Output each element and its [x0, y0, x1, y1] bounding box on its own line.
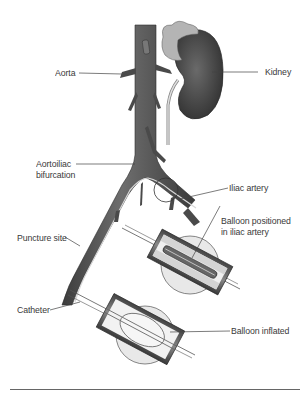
- label-puncture-site: Puncture site: [17, 232, 67, 243]
- label-balloon-inflated: Balloon inflated: [231, 325, 289, 336]
- label-kidney: Kidney: [265, 66, 291, 77]
- label-aortoiliac-line2: bifurcation: [36, 169, 75, 180]
- kidney-organ: [162, 21, 223, 145]
- angioplasty-diagram: [0, 0, 305, 396]
- bottom-divider: [10, 389, 300, 390]
- label-iliac-artery: Iliac artery: [229, 182, 268, 193]
- label-aorta: Aorta: [55, 67, 75, 78]
- label-catheter: Catheter: [17, 304, 50, 315]
- label-balloon-positioned-line2: in iliac artery: [221, 226, 269, 237]
- label-balloon-positioned-line1: Balloon positioned: [221, 215, 291, 226]
- label-aortoiliac-line1: Aortoiliac: [36, 158, 71, 169]
- balloon-inflated-illustration: [68, 290, 195, 365]
